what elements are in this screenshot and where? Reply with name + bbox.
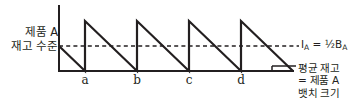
y-axis-label-line-1: 제품 A [11,26,58,40]
formula-value-subscript: A [342,43,347,52]
formula-symbol-subscript: A [304,43,309,52]
note-line-2: = 제품 A [298,74,340,86]
x-tick-label-a: a [81,73,88,87]
average-inventory-formula: IA = ½BA [301,38,347,51]
x-tick-label-b: b [133,73,141,87]
inventory-sawtooth-figure: 제품 A 재고 수준 a b c d IA = ½BA 평균 재고 = 제품 A… [0,0,350,110]
y-axis-label-line-2: 재고 수준 [11,40,58,54]
y-axis-label: 제품 A 재고 수준 [11,26,58,53]
note-line-3: 뱃치 크기 [298,87,340,99]
average-inventory-note: 평균 재고 = 제품 A 뱃치 크기 [298,62,340,99]
formula-equals: = [309,38,324,50]
formula-value: ½B [325,38,342,50]
x-tick-label-c: c [186,73,193,87]
x-tick-label-d: d [237,73,245,87]
note-line-1: 평균 재고 [298,62,340,74]
